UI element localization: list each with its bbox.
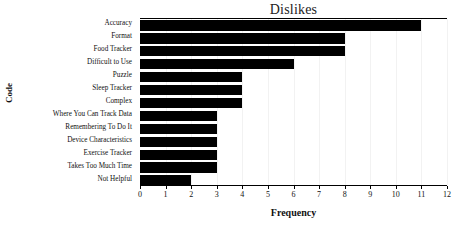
bar xyxy=(140,137,217,147)
bar xyxy=(140,33,345,43)
y-axis-tick-label: Difficult to Use xyxy=(87,59,132,66)
bar xyxy=(140,124,217,134)
x-axis-tick-label: 5 xyxy=(266,191,270,199)
x-axis-ticks: 0123456789101112 xyxy=(140,186,447,208)
bar xyxy=(140,162,217,172)
bar-chart: Dislikes Code AccuracyFormatFood Tracker… xyxy=(0,0,459,227)
x-axis-tick-mark xyxy=(319,186,320,189)
x-axis-tick-label: 11 xyxy=(418,191,426,199)
y-axis-tick-label: Complex xyxy=(106,98,132,105)
bar xyxy=(140,150,217,160)
y-axis-tick-label: Not Helpful xyxy=(97,176,132,183)
y-axis-tick-label: Food Tracker xyxy=(93,46,132,53)
x-axis-tick-mark xyxy=(242,186,243,189)
chart-title: Dislikes xyxy=(140,2,447,18)
bar-row xyxy=(140,45,447,58)
bar-row xyxy=(140,122,447,135)
x-axis-tick-mark xyxy=(140,186,141,189)
bar-row xyxy=(140,109,447,122)
x-axis-title: Frequency xyxy=(140,207,447,218)
bars-layer xyxy=(140,19,447,185)
y-axis-tick-label: Sleep Tracker xyxy=(92,85,132,92)
x-axis-tick-label: 8 xyxy=(343,191,347,199)
y-axis-tick-labels: AccuracyFormatFood TrackerDifficult to U… xyxy=(0,18,136,186)
x-axis-tick-label: 12 xyxy=(443,191,451,199)
bar-row xyxy=(140,32,447,45)
x-axis-tick-mark xyxy=(217,186,218,189)
bar-row xyxy=(140,71,447,84)
x-axis-tick-label: 2 xyxy=(189,191,193,199)
y-axis-tick-label: Exercise Tracker xyxy=(84,150,133,157)
y-axis-tick-label: Format xyxy=(111,33,132,40)
y-axis-tick-label: Takes Too Much Time xyxy=(67,163,132,170)
bar xyxy=(140,85,242,95)
bar-row xyxy=(140,97,447,110)
bar-row xyxy=(140,84,447,97)
y-axis-tick-label: Puzzle xyxy=(113,72,132,79)
x-axis-tick-label: 9 xyxy=(368,191,372,199)
x-axis-tick-mark xyxy=(191,186,192,189)
x-axis-tick-mark xyxy=(447,186,448,189)
bar xyxy=(140,98,242,108)
x-axis-tick-mark xyxy=(421,186,422,189)
x-axis-tick-mark xyxy=(396,186,397,189)
bar xyxy=(140,111,217,121)
gridline xyxy=(447,19,448,185)
bar-row xyxy=(140,58,447,71)
x-axis-tick-mark xyxy=(370,186,371,189)
x-axis-tick-mark xyxy=(294,186,295,189)
y-axis-tick-label: Remembering To Do It xyxy=(65,124,132,131)
x-axis-tick-label: 0 xyxy=(138,191,142,199)
bar-row xyxy=(140,148,447,161)
x-axis-tick-label: 4 xyxy=(240,191,244,199)
bar xyxy=(140,72,242,82)
bar xyxy=(140,59,294,69)
plot-area xyxy=(140,18,447,186)
x-axis-tick-label: 6 xyxy=(292,191,296,199)
x-axis-tick-mark xyxy=(166,186,167,189)
bar-row xyxy=(140,19,447,32)
x-axis-tick-label: 3 xyxy=(215,191,219,199)
y-axis-tick-label: Where You Can Track Data xyxy=(53,111,132,118)
bar xyxy=(140,46,345,56)
x-axis-tick-label: 1 xyxy=(164,191,168,199)
x-axis-tick-mark xyxy=(345,186,346,189)
bar xyxy=(140,175,191,185)
y-axis-tick-label: Accuracy xyxy=(104,20,132,27)
x-axis-tick-mark xyxy=(268,186,269,189)
x-axis-tick-label: 10 xyxy=(392,191,400,199)
bar-row xyxy=(140,135,447,148)
x-axis-tick-label: 7 xyxy=(317,191,321,199)
bar-row xyxy=(140,161,447,174)
y-axis-tick-label: Device Characteristics xyxy=(67,137,132,144)
bar xyxy=(140,20,421,30)
